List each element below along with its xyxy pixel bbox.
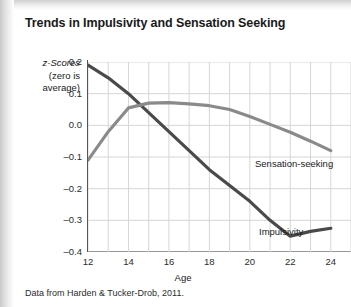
- x-axis-title: Age: [88, 272, 278, 283]
- y-tick-label: 0.1: [48, 89, 82, 99]
- series-label-sensation-seeking: Sensation-seeking: [255, 158, 333, 169]
- x-tick-label: 24: [319, 256, 343, 267]
- x-tick-label: 12: [76, 256, 100, 267]
- series-line-sensation-seeking: [88, 103, 331, 161]
- x-tick-label: 16: [157, 256, 181, 267]
- y-tick-label: –0.1: [48, 152, 82, 162]
- x-tick-label: 20: [238, 256, 262, 267]
- series-lines: [88, 62, 351, 252]
- y-tick-label: –0.3: [48, 215, 82, 225]
- y-tick-label: 0.0: [48, 120, 82, 130]
- series-label-impulsivity: Impulsivity: [259, 226, 303, 237]
- chart-figure: Trends in Impulsivity and Sensation Seek…: [0, 0, 351, 307]
- y-tick-label: –0.2: [48, 184, 82, 194]
- y-tick-label: 0.2: [48, 57, 82, 67]
- x-tick-label: 14: [116, 256, 140, 267]
- x-tick-label: 18: [197, 256, 221, 267]
- page-edge-left: [0, 0, 14, 307]
- plot-area: [88, 62, 351, 252]
- x-tick-label: 22: [278, 256, 302, 267]
- series-line-impulsivity: [88, 65, 331, 236]
- source-note: Data from Harden & Tucker-Drob, 2011.: [25, 288, 184, 298]
